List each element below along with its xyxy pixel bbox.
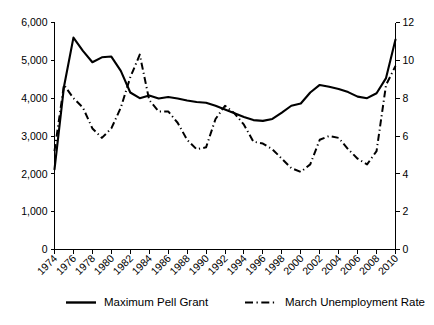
y-axis-right: 024681012 <box>396 16 415 255</box>
x-axis-tick-label: 1982 <box>110 252 135 277</box>
x-axis-tick-label: 1974 <box>34 252 59 277</box>
plot-area: 01,0002,0003,0004,0005,0006,000 02468101… <box>21 16 414 277</box>
chart-container: 01,0002,0003,0004,0005,0006,000 02468101… <box>0 0 434 325</box>
x-axis-tick-label: 2004 <box>319 252 344 277</box>
x-axis-tick-label: 1986 <box>148 252 173 277</box>
chart-legend: Maximum Pell GrantMarch Unemployment Rat… <box>66 296 425 308</box>
series-lines <box>55 38 396 172</box>
series-line-march-unemployment-rate <box>55 55 396 172</box>
y-axis-right-tick-label: 0 <box>403 243 409 255</box>
x-axis-tick-label: 1996 <box>243 252 268 277</box>
x-axis-tick-label: 1990 <box>186 252 211 277</box>
y-axis-left-tick-label: 6,000 <box>21 16 47 28</box>
x-axis-tick-label: 2000 <box>281 252 306 277</box>
y-axis-left-tick-label: 0 <box>42 243 48 255</box>
x-axis-tick-label: 1980 <box>91 252 116 277</box>
legend-label-2: March Unemployment Rate <box>285 296 425 308</box>
series-line-maximum-pell-grant <box>55 38 396 170</box>
x-axis-tick-label: 2010 <box>375 252 400 277</box>
y-axis-right-tick-label: 8 <box>403 92 409 104</box>
y-axis-left: 01,0002,0003,0004,0005,0006,000 <box>21 16 54 255</box>
y-axis-left-tick-label: 3,000 <box>21 130 47 142</box>
x-axis-tick-label: 2008 <box>356 252 381 277</box>
x-axis-tick-label: 2002 <box>300 252 325 277</box>
x-axis-tick-label: 1976 <box>53 252 78 277</box>
dual-axis-line-chart: 01,0002,0003,0004,0005,0006,000 02468101… <box>0 0 434 325</box>
y-axis-right-tick-label: 6 <box>403 130 409 142</box>
x-axis-tick-label: 1994 <box>224 252 249 277</box>
x-axis-tick-label: 1998 <box>262 252 287 277</box>
x-axis-tick-label: 1988 <box>167 252 192 277</box>
x-axis-tick-label: 1984 <box>129 252 154 277</box>
y-axis-right-tick-label: 2 <box>403 205 409 217</box>
x-axis-tick-label: 1978 <box>72 252 97 277</box>
y-axis-right-tick-label: 4 <box>403 168 409 180</box>
x-axis-tick-label: 2006 <box>338 252 363 277</box>
y-axis-left-tick-label: 4,000 <box>21 92 47 104</box>
y-axis-right-tick-label: 12 <box>403 16 415 28</box>
x-axis: 1974197619781980198219841986198819901992… <box>34 250 400 277</box>
y-axis-left-tick-label: 2,000 <box>21 168 47 180</box>
y-axis-left-tick-label: 5,000 <box>21 54 47 66</box>
x-axis-tick-label: 1992 <box>205 252 230 277</box>
y-axis-left-tick-label: 1,000 <box>21 205 47 217</box>
y-axis-right-tick-label: 10 <box>403 54 415 66</box>
legend-label-1: Maximum Pell Grant <box>104 296 209 308</box>
